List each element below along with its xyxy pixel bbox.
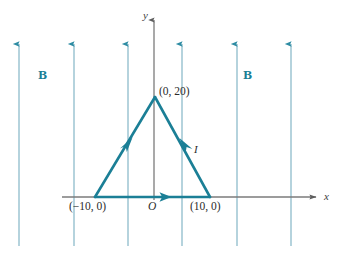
y-axis-label: y [143, 10, 148, 21]
current-label: I [194, 144, 198, 155]
origin-label: O [148, 201, 156, 213]
left-base-vertex-label: (−10, 0) [69, 201, 106, 213]
diagram-canvas [0, 0, 338, 256]
loop-left-edge [95, 97, 155, 197]
physics-diagram-figure: B B y x (0, 20) (−10, 0) (10, 0) O I [0, 0, 338, 256]
x-axis-label: x [324, 191, 329, 202]
coordinate-axes [62, 20, 316, 200]
right-base-vertex-label: (10, 0) [190, 201, 221, 213]
magnetic-field-label-left: B [38, 70, 47, 81]
triangular-current-loop [95, 97, 210, 197]
magnetic-field-label-right: B [243, 70, 252, 81]
apex-vertex-label: (0, 20) [159, 86, 190, 98]
